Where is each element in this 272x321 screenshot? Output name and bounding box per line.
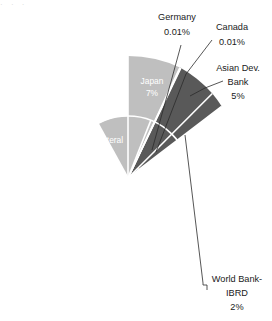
- callout-label-germany: Germany 0.01%: [158, 12, 196, 37]
- worldbank-label-line1: World Bank-: [212, 274, 262, 284]
- worldbank-label-line2: IBRD: [226, 288, 248, 298]
- bondholders-label-name: Bondholders: [64, 243, 111, 253]
- adb-label-value: 5%: [231, 91, 244, 101]
- slice-label-bondholders: Bondholders 86%: [64, 243, 111, 265]
- private-label-value: 86%: [100, 204, 117, 214]
- bilateral-label-value: 8%: [102, 147, 115, 157]
- japan-label-value: 7%: [146, 88, 159, 98]
- japan-label-name: Japan: [141, 76, 164, 86]
- adb-label-name-line1: Asian Dev.: [216, 63, 260, 73]
- pie-chart-canvas: Germany 0.01% Canada 0.01% Asian Dev. Ba…: [0, 0, 272, 321]
- multilateral-label-value: 6%: [151, 178, 164, 188]
- multilateral-label-name: Multilateral: [137, 166, 178, 176]
- slice-label-multilateral: Multilateral 6%: [137, 166, 178, 188]
- callout-label-asian-dev-bank: Asian Dev. Bank 5%: [216, 63, 260, 101]
- germany-label-value: 0.01%: [164, 27, 190, 37]
- canada-label-value: 0.01%: [219, 37, 245, 47]
- pie-chart: Germany 0.01% Canada 0.01% Asian Dev. Ba…: [0, 0, 272, 321]
- callout-label-canada: Canada 0.01%: [216, 22, 249, 47]
- bilateral-label-name: Bilateral: [93, 135, 123, 145]
- germany-label-name: Germany: [158, 12, 196, 22]
- callout-label-world-bank-ibrd: World Bank- IBRD 2%: [212, 274, 262, 312]
- private-label-name: Private: [95, 192, 121, 202]
- canada-label-name: Canada: [216, 22, 249, 32]
- bondholders-label-value: 86%: [80, 255, 97, 265]
- slice-label-private: Private 86%: [95, 192, 121, 214]
- adb-label-name-line2: Bank: [228, 77, 249, 87]
- leader-line-world-bank-ibrd: [185, 135, 207, 290]
- inner-ring-group: [66, 116, 190, 240]
- worldbank-label-value: 2%: [230, 302, 243, 312]
